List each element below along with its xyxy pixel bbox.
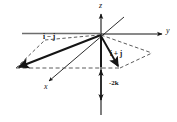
dashed-lower-right-edge: [120, 53, 152, 68]
vector-i-minus-j: [19, 35, 101, 67]
axis-label-y: y: [166, 27, 170, 35]
vector-i-minus-j-arrow: [19, 35, 101, 67]
vector-label-i-minus-j: i − j: [43, 33, 55, 41]
vector-diagram-canvas: [0, 0, 177, 122]
dashed-left-edge: [16, 40, 45, 68]
vector-diagram-figure: z y x i − j i + j -2k: [0, 0, 177, 122]
axis-label-x: x: [44, 83, 48, 91]
axis-label-z: z: [99, 2, 102, 10]
vector-label-i-plus-j: i + j: [110, 50, 122, 58]
vector-label-minus-2k: -2k: [109, 80, 119, 87]
